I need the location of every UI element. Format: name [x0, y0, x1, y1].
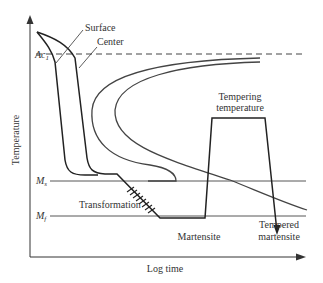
y-axis-arrow-icon — [27, 15, 34, 24]
center-pointer — [79, 47, 97, 68]
tempering-label-2: temperature — [216, 102, 264, 113]
transformation-start-curve — [92, 58, 260, 181]
center-cooling-curve — [37, 32, 277, 232]
transformation-label: Transformation — [79, 199, 141, 210]
tempered-label-2: martensite — [258, 231, 300, 242]
surface-pointer — [56, 30, 83, 63]
tempering-label-1: Tempering — [218, 91, 261, 102]
x-axis-arrow-icon — [296, 254, 306, 261]
mf-label: Mf — [35, 210, 47, 223]
surface-label: Surface — [85, 22, 116, 33]
x-axis-label: Log time — [147, 263, 184, 274]
ac1-label: Ac1 — [34, 49, 49, 62]
tempering-diagram: Surface Center Ac1 Ms Mf Tempering tempe… — [0, 0, 323, 283]
y-axis-label: Temperature — [10, 114, 21, 165]
ms-label: Ms — [35, 175, 47, 188]
martensite-label: Martensite — [178, 231, 221, 242]
center-label: Center — [97, 36, 124, 47]
tempered-label-1: Tempered — [259, 219, 299, 230]
